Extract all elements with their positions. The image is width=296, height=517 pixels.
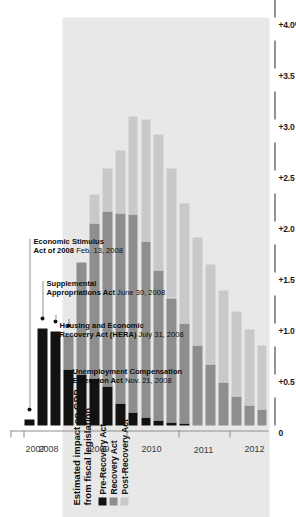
bar-segment-pre bbox=[37, 328, 47, 425]
year-tick bbox=[23, 430, 24, 437]
bar-segment-pre bbox=[63, 369, 73, 425]
annotation-dot bbox=[40, 316, 44, 320]
annotation-dot bbox=[27, 407, 31, 411]
year-axis-label: 2010 bbox=[141, 444, 161, 454]
year-axis-label: 2008 bbox=[38, 444, 58, 454]
bar-segment-rec bbox=[218, 382, 228, 425]
bar-segment-post bbox=[192, 237, 202, 345]
chart-rotated-canvas: Estimated impact on GDP from fiscal legi… bbox=[0, 0, 296, 517]
legend-label-pre: Pre-Recovery Act bbox=[97, 423, 107, 494]
bar-segment-post bbox=[115, 150, 125, 213]
bar-segment-rec bbox=[257, 409, 267, 425]
bar-2012Q2[interactable] bbox=[244, 17, 254, 425]
value-tick-label: +1.5 bbox=[278, 274, 294, 284]
annotation-2008Q1: Economic StimulusAct of 2008 Feb. 13, 20… bbox=[33, 237, 123, 254]
annotation-title-line2: Act of 2008 Feb. 13, 2008 bbox=[33, 246, 123, 255]
annotation-title-line2: Appropriations Act June 30, 2008 bbox=[46, 288, 165, 297]
year-axis-label: 2011 bbox=[193, 444, 212, 454]
bar-segment-post bbox=[257, 345, 267, 408]
bar-segment-post bbox=[231, 311, 241, 397]
bar-segment-rec bbox=[192, 345, 202, 425]
annotation-leader-line bbox=[29, 239, 30, 409]
value-axis-line bbox=[270, 17, 271, 425]
year-tick bbox=[126, 430, 127, 437]
bar-segment-pre bbox=[50, 331, 60, 425]
annotation-leader-line bbox=[42, 281, 43, 318]
value-tick bbox=[274, 0, 275, 17]
value-tick bbox=[274, 244, 275, 272]
value-tick bbox=[274, 91, 275, 119]
year-tick bbox=[75, 430, 76, 437]
bar-segment-post bbox=[89, 195, 99, 224]
value-tick bbox=[274, 346, 275, 374]
bar-2008Q3[interactable] bbox=[50, 17, 60, 425]
value-tick bbox=[274, 40, 275, 68]
bar-segment-post bbox=[141, 119, 151, 241]
annotation-date: Feb. 13, 2008 bbox=[76, 245, 123, 254]
value-tick-label: +1.0 bbox=[278, 325, 294, 335]
annotation-2008Q4: Unemployment CompensationExtension Act N… bbox=[72, 367, 182, 384]
bar-2009Q4[interactable] bbox=[115, 17, 125, 425]
annotation-dot bbox=[53, 319, 57, 323]
value-tick-label: +4.0% bbox=[278, 19, 296, 29]
annotation-2008Q2: SupplementalAppropriations Act June 30, … bbox=[46, 279, 165, 296]
bar-segment-pre bbox=[89, 378, 99, 425]
year-tick bbox=[10, 430, 11, 437]
value-tick-label: +2.0 bbox=[278, 223, 294, 233]
bar-2009Q3[interactable] bbox=[102, 17, 112, 425]
bar-segment-post bbox=[205, 264, 215, 364]
bar-segment-post bbox=[102, 168, 112, 211]
bar-segment-rec bbox=[63, 335, 73, 369]
year-axis-label: 2012 bbox=[244, 444, 264, 454]
bar-2010Q3[interactable] bbox=[153, 17, 163, 425]
bar-2010Q4[interactable] bbox=[166, 17, 176, 425]
legend-swatch-icon-pre bbox=[98, 497, 106, 505]
value-tick-label: 0 bbox=[278, 427, 283, 437]
bar-2008Q4[interactable] bbox=[63, 17, 73, 425]
bar-segment-pre bbox=[102, 386, 112, 425]
year-tick bbox=[229, 430, 230, 437]
bar-segment-pre bbox=[153, 420, 163, 425]
legend-swatch-icon-post bbox=[120, 497, 128, 505]
bar-2012Q3[interactable] bbox=[257, 17, 267, 425]
bar-2009Q2[interactable] bbox=[89, 17, 99, 425]
bar-segment-post bbox=[153, 134, 163, 270]
bar-2010Q1[interactable] bbox=[128, 17, 138, 425]
value-tick-label: +0.5 bbox=[278, 376, 294, 386]
value-tick bbox=[274, 193, 275, 221]
annotation-title-line2: Recovery Act (HERA) July 31, 2008 bbox=[59, 330, 183, 339]
plot-area: Estimated impact on GDP from fiscal legi… bbox=[0, 0, 296, 517]
bar-2008Q2[interactable] bbox=[37, 17, 47, 425]
value-tick-label: +3.5 bbox=[278, 70, 294, 80]
bar-segment-pre bbox=[115, 403, 125, 425]
bar-segment-post bbox=[179, 203, 189, 323]
bar-2012Q1[interactable] bbox=[231, 17, 241, 425]
bar-2010Q2[interactable] bbox=[141, 17, 151, 425]
bar-2007Q4[interactable] bbox=[12, 17, 22, 425]
bar-segment-rec bbox=[205, 364, 215, 425]
bar-2009Q1[interactable] bbox=[76, 17, 86, 425]
year-tick bbox=[178, 430, 179, 437]
bar-segment-rec bbox=[231, 396, 241, 425]
chart-figure: Estimated impact on GDP from fiscal legi… bbox=[0, 0, 296, 517]
bar-segment-pre bbox=[141, 417, 151, 425]
bar-2011Q1[interactable] bbox=[179, 17, 189, 425]
legend-swatch-icon-rec bbox=[109, 497, 117, 505]
bar-segment-post bbox=[244, 329, 254, 404]
bar-2011Q4[interactable] bbox=[218, 17, 228, 425]
bar-segment-post bbox=[166, 168, 176, 298]
annotation-date: June 30, 2008 bbox=[117, 287, 165, 296]
value-tick-label: +2.5 bbox=[278, 172, 294, 182]
bar-2011Q2[interactable] bbox=[192, 17, 202, 425]
bar-segment-rec bbox=[244, 405, 254, 425]
bar-segment-pre bbox=[24, 419, 34, 425]
value-tick bbox=[274, 295, 275, 323]
annotation-title-line2: Extension Act Nov. 21, 2008 bbox=[72, 376, 182, 385]
value-tick bbox=[274, 397, 275, 425]
bar-segment-post bbox=[128, 116, 138, 214]
bar-segment-pre bbox=[128, 412, 138, 425]
value-tick-label: +3.0 bbox=[278, 121, 294, 131]
bar-2011Q3[interactable] bbox=[205, 17, 215, 425]
annotation-2008Q3: Housing and EconomicRecovery Act (HERA) … bbox=[59, 321, 183, 338]
bar-segment-rec bbox=[166, 298, 176, 422]
